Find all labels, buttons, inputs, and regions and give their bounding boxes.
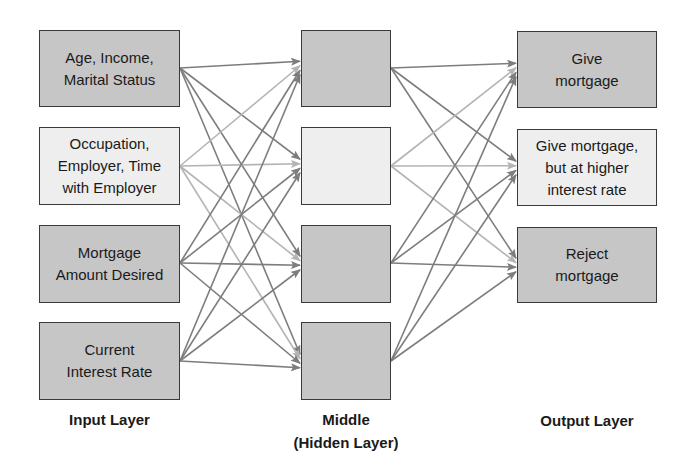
output-node-label: Give mortgage	[555, 48, 618, 92]
connection-arrow	[391, 63, 516, 68]
output-node-label: Give mortgage, but at higher interest ra…	[536, 135, 639, 201]
output-layer-label: Output Layer	[517, 409, 657, 432]
input-node-label: Mortgage Amount Desired	[56, 242, 164, 286]
connection-arrow	[180, 68, 300, 256]
connection-arrow	[180, 166, 300, 359]
input-node-label: Age, Income, Marital Status	[64, 47, 156, 91]
input-node-label: Current Interest Rate	[67, 339, 153, 383]
hidden-node-2	[301, 127, 391, 205]
hidden-node-1	[301, 30, 391, 107]
input-node-mortgage-amount: Mortgage Amount Desired	[39, 225, 180, 303]
hidden-layer-label: Middle (Hidden Layer)	[266, 408, 426, 454]
connection-arrow	[180, 68, 300, 354]
connection-arrow	[180, 61, 300, 68]
hidden-node-3	[301, 225, 391, 303]
connection-arrow	[391, 175, 516, 361]
input-node-occupation-employer: Occupation, Employer, Time with Employer	[39, 127, 180, 205]
output-node-higher-rate: Give mortgage, but at higher interest ra…	[517, 129, 657, 206]
connection-arrow	[180, 70, 300, 263]
connection-arrow	[180, 361, 300, 368]
connection-arrow	[180, 263, 300, 265]
connection-arrow	[391, 77, 516, 361]
output-node-label: Reject mortgage	[555, 243, 618, 287]
output-node-reject-mortgage: Reject mortgage	[517, 227, 657, 303]
connection-arrow	[391, 72, 516, 263]
connection-arrow	[180, 173, 300, 361]
input-node-age-income-marital: Age, Income, Marital Status	[39, 30, 180, 107]
connection-arrow	[391, 272, 516, 361]
connection-arrow	[180, 166, 300, 261]
input-node-interest-rate: Current Interest Rate	[39, 322, 180, 400]
input-layer-label: Input Layer	[39, 408, 180, 431]
output-node-give-mortgage: Give mortgage	[517, 31, 657, 108]
connection-arrow	[180, 75, 300, 361]
connection-arrow	[391, 68, 516, 258]
input-node-label: Occupation, Employer, Time with Employer	[58, 133, 161, 199]
hidden-node-4	[301, 322, 391, 400]
connection-arrow	[180, 168, 300, 263]
